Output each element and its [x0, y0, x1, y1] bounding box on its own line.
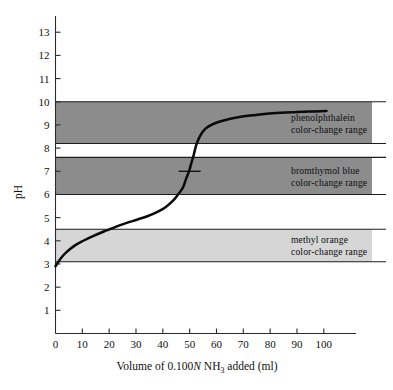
y-tick-label: 8 [44, 142, 50, 154]
y-tick-label: 6 [44, 188, 50, 200]
band-label-methyl-orange-line2: color-change range [291, 246, 367, 257]
x-tick-label: 80 [265, 338, 277, 350]
x-tick-label: 40 [157, 338, 169, 350]
chart-canvas: 12345678910111213 0102030405060708090100… [0, 0, 393, 390]
y-tick-label: 9 [44, 119, 50, 131]
x-tick-label: 50 [184, 338, 196, 350]
x-tick-label: 70 [238, 338, 250, 350]
x-axis-ticks: 0102030405060708090100 [53, 329, 333, 350]
x-axis-title: Volume of 0.100N NH3 added (ml) [117, 360, 278, 375]
band-label-bromthymol-blue-line1: bromthymol blue [291, 165, 360, 176]
x-title-prefix: Volume of 0.100 [117, 360, 194, 372]
y-tick-label: 10 [39, 96, 51, 108]
titration-curve-figure: 12345678910111213 0102030405060708090100… [0, 0, 393, 390]
x-tick-label: 90 [291, 338, 303, 350]
y-tick-label: 1 [44, 304, 50, 316]
x-tick-label: 20 [104, 338, 116, 350]
x-tick-label: 100 [316, 338, 333, 350]
y-tick-label: 12 [39, 49, 50, 61]
y-tick-label: 4 [44, 235, 50, 247]
band-label-phenolphthalein-line1: phenolphthalein [291, 112, 355, 123]
x-tick-label: 60 [211, 338, 223, 350]
x-title-suffix: added (ml) [227, 360, 277, 373]
y-tick-label: 13 [39, 26, 51, 38]
y-axis-ticks: 12345678910111213 [39, 26, 61, 316]
y-tick-label: 3 [44, 258, 50, 270]
y-axis-title: pH [12, 185, 25, 199]
y-tick-label: 11 [39, 73, 50, 85]
y-tick-label: 2 [44, 281, 50, 293]
y-tick-label: 7 [44, 165, 50, 177]
band-label-bromthymol-blue-line2: color-change range [291, 177, 367, 188]
x-tick-label: 30 [130, 338, 142, 350]
x-tick-label: 10 [77, 338, 89, 350]
band-label-methyl-orange-line1: methyl orange [291, 234, 348, 245]
band-label-phenolphthalein-line2: color-change range [291, 124, 367, 135]
x-tick-label: 0 [53, 338, 59, 350]
y-tick-label: 5 [44, 212, 50, 224]
x-title-species: NH [204, 360, 221, 372]
